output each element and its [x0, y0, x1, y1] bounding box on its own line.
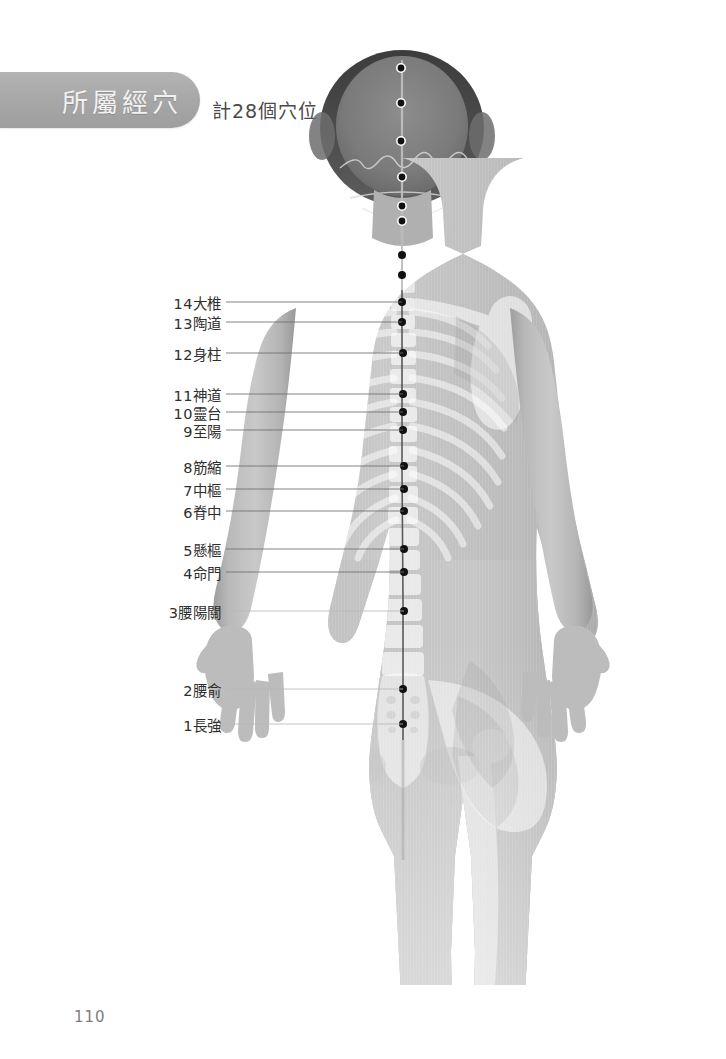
- leader-line-7: [226, 489, 404, 490]
- acupoint-annotation-layer: 14大椎13陶道12身柱11神道10靈台9至陽8筋縮7中樞6脊中5懸樞4命門3腰…: [0, 0, 726, 1059]
- page-number: 110: [74, 1008, 106, 1026]
- leader-line-5: [226, 549, 404, 550]
- leader-line-1: [226, 724, 403, 725]
- leader-line-4: [226, 572, 404, 573]
- acupoint-dot: [398, 202, 406, 210]
- leader-line-2: [226, 689, 403, 690]
- acupoint-dot: [397, 64, 405, 72]
- acupoint-label-9: 9至陽: [183, 420, 222, 441]
- leader-line-6: [226, 511, 404, 512]
- leader-line-11: [226, 394, 403, 395]
- leader-line-3: [226, 611, 404, 612]
- acupoint-label-13: 13陶道: [174, 312, 222, 333]
- acupoint-dot: [398, 173, 406, 181]
- acupoint-label-8: 8筋縮: [183, 456, 222, 477]
- acupoint-dots: [0, 0, 726, 1059]
- book-page: 所屬經穴 計28個穴位: [0, 0, 726, 1059]
- leader-line-13: [226, 322, 402, 323]
- acupoint-label-3: 3腰陽關: [169, 601, 222, 622]
- acupoint-dot: [397, 137, 405, 145]
- leader-line-10: [226, 412, 403, 413]
- acupoint-dot: [398, 271, 406, 279]
- acupoint-label-7: 7中樞: [183, 479, 222, 500]
- acupoint-label-6: 6脊中: [183, 501, 222, 522]
- leader-line-14: [226, 302, 402, 303]
- acupoint-label-14: 14大椎: [174, 292, 222, 313]
- acupoint-dot: [397, 99, 405, 107]
- acupoint-dot: [398, 217, 406, 225]
- leader-line-9: [226, 430, 403, 431]
- acupoint-label-12: 12身柱: [174, 343, 222, 364]
- leader-line-8: [226, 466, 404, 467]
- acupoint-label-5: 5懸樞: [183, 539, 222, 560]
- acupoint-label-1: 1長強: [183, 714, 222, 735]
- acupoint-label-2: 2腰俞: [183, 679, 222, 700]
- acupoint-dot: [398, 251, 406, 259]
- leader-line-12: [226, 353, 403, 354]
- acupoint-label-4: 4命門: [183, 562, 222, 583]
